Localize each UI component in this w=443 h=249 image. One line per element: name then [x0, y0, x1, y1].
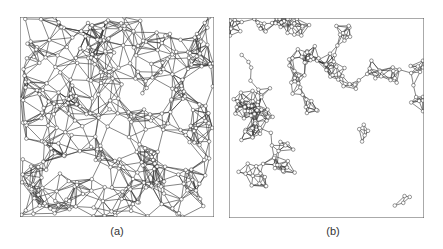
graph-node: [304, 105, 308, 109]
graph-node: [94, 158, 98, 162]
graph-node: [90, 23, 94, 27]
graph-node: [198, 143, 202, 147]
graph-node: [135, 150, 139, 154]
graph-node: [92, 206, 96, 210]
graph-node: [159, 185, 163, 189]
graph-node: [235, 105, 239, 109]
graph-node: [421, 95, 425, 99]
graph-node: [421, 66, 425, 70]
graph-node: [78, 47, 82, 51]
graph-node: [45, 81, 49, 85]
graph-node: [162, 192, 166, 196]
graph-node: [95, 147, 99, 151]
graph-node: [171, 73, 175, 77]
graph-node: [366, 129, 370, 133]
graph-node: [53, 152, 57, 156]
graph-node: [301, 25, 305, 29]
graph-node: [203, 174, 207, 178]
graph-node: [418, 70, 422, 74]
graph-node: [20, 181, 24, 185]
graph-node: [286, 159, 290, 163]
graph-node: [102, 27, 106, 31]
graph-node: [342, 84, 346, 88]
graph-node: [279, 25, 283, 29]
graph-node: [48, 207, 52, 211]
graph-node: [278, 17, 282, 21]
graph-node: [421, 59, 425, 63]
graph-node: [62, 154, 66, 158]
graph-node: [53, 199, 57, 203]
graph-node: [211, 84, 215, 88]
graph-node: [239, 29, 243, 33]
graph-node: [74, 56, 78, 60]
panel-a-label: (a): [97, 225, 137, 237]
graph-node: [198, 197, 202, 201]
graph-node: [331, 73, 335, 77]
panel-a: [0, 0, 443, 249]
graph-node: [333, 53, 337, 57]
graph-node: [71, 36, 75, 40]
graph-node: [254, 164, 258, 168]
graph-node: [270, 144, 274, 148]
graph-node: [298, 86, 302, 90]
graph-node: [142, 108, 146, 112]
graph-node: [67, 97, 71, 101]
graph-node: [119, 21, 123, 25]
graph-node: [111, 77, 115, 81]
graph-node: [317, 56, 321, 60]
graph-node: [24, 86, 28, 90]
graph-node: [293, 171, 297, 175]
graph-node: [67, 112, 71, 116]
graph-node: [32, 55, 36, 59]
graph-node: [27, 80, 31, 84]
graph-node: [86, 46, 90, 50]
graph-node: [293, 76, 297, 80]
graph-node: [378, 70, 382, 74]
graph-node: [421, 109, 425, 113]
graph-node: [30, 188, 34, 192]
graph-node: [300, 34, 304, 38]
graph-node: [149, 150, 153, 154]
graph-node: [174, 50, 178, 54]
graph-node: [347, 24, 351, 28]
graph-node: [44, 56, 48, 60]
graph-node: [243, 130, 247, 134]
graph-node: [300, 55, 304, 59]
graph-node: [246, 162, 250, 166]
graph-node: [303, 61, 307, 65]
graph-node: [143, 146, 147, 150]
graph-node: [86, 21, 90, 25]
graph-node: [240, 138, 244, 142]
graph-node: [101, 156, 105, 160]
graph-node: [80, 124, 84, 128]
graph-node: [142, 181, 146, 185]
graph-node: [284, 144, 288, 148]
graph-node: [93, 62, 97, 66]
graph-node: [93, 135, 97, 139]
graph-node: [263, 175, 267, 179]
graph-node: [177, 211, 181, 215]
graph-node: [161, 128, 165, 132]
graph-node: [29, 165, 33, 169]
graph-node: [186, 67, 190, 71]
graph-node: [21, 158, 25, 162]
graph-node: [136, 200, 140, 204]
graph-node: [74, 94, 78, 98]
graph-node: [188, 140, 192, 144]
graph-node: [253, 17, 257, 21]
graph-node: [95, 38, 99, 42]
graph-node: [35, 88, 39, 92]
graph-node: [134, 54, 138, 58]
graph-node: [38, 204, 42, 208]
graph-node: [189, 124, 193, 128]
graph-node: [85, 112, 89, 116]
graph-node: [90, 177, 94, 181]
graph-node: [94, 55, 98, 59]
graph-node: [163, 165, 167, 169]
graph-node: [232, 97, 236, 101]
graph-node: [242, 116, 246, 120]
graph-node: [249, 66, 253, 70]
graph-node: [156, 48, 160, 52]
graph-node: [73, 119, 77, 123]
graph-node: [149, 119, 153, 123]
